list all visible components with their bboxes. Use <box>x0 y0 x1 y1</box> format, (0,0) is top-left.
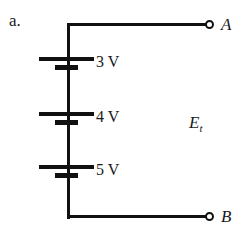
total-emf-label: Et <box>189 114 202 134</box>
part-label: a. <box>9 12 21 29</box>
wire-bottom-horizontal <box>67 215 208 218</box>
battery-cell-2-positive-plate <box>39 112 94 116</box>
wire-vertical-top-to-cell1 <box>67 23 70 59</box>
terminal-b-node <box>205 212 214 221</box>
wire-top-horizontal <box>67 23 208 26</box>
terminal-b-label: B <box>221 208 231 225</box>
battery-cell-1-positive-plate <box>39 57 94 61</box>
battery-cell-2-negative-plate <box>55 120 78 125</box>
total-emf-symbol: E <box>189 113 199 132</box>
battery-cell-3-voltage-label: 5 V <box>96 162 119 178</box>
terminal-a-node <box>205 20 214 29</box>
battery-cell-3-negative-plate <box>55 173 78 178</box>
battery-cell-2-voltage-label: 4 V <box>96 109 119 125</box>
battery-cell-3-positive-plate <box>39 165 94 169</box>
total-emf-subscript: t <box>199 122 202 134</box>
battery-cell-1-voltage-label: 3 V <box>96 54 119 70</box>
terminal-a-label: A <box>221 16 231 33</box>
circuit-diagram: a. 3 V 4 V 5 V Et A B <box>0 0 245 234</box>
battery-cell-1-negative-plate <box>55 65 78 70</box>
